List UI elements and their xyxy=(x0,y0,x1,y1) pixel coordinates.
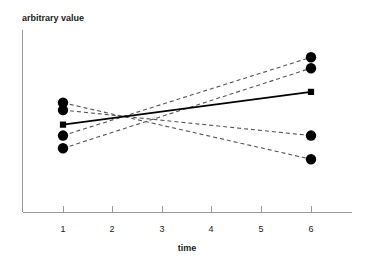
data-point-subject-3-1 xyxy=(58,130,68,140)
chart-plot-area: arbitrary value 1 2 3 4 5 6 time xyxy=(0,0,372,259)
data-point-subject-3-6 xyxy=(306,52,316,62)
series-line-subject-2 xyxy=(63,110,311,135)
data-point-subject-4-6 xyxy=(306,63,316,73)
x-tick-label-5: 5 xyxy=(258,224,263,234)
x-axis-ticks xyxy=(64,206,312,212)
series-line-subject-1 xyxy=(63,103,311,159)
x-tick-label-3: 3 xyxy=(159,224,164,234)
x-tick-label-1: 1 xyxy=(60,224,65,234)
data-point-subject-1-6 xyxy=(306,154,316,164)
data-point-mean-6 xyxy=(308,89,314,95)
x-axis-tick-labels: 1 2 3 4 5 6 xyxy=(60,224,313,234)
y-axis-title: arbitrary value xyxy=(22,13,84,23)
data-point-mean-1 xyxy=(60,122,66,128)
x-axis-title: time xyxy=(178,243,197,253)
x-tick-label-6: 6 xyxy=(308,224,313,234)
chart-series-layer xyxy=(63,57,311,159)
data-point-subject-4-1 xyxy=(58,143,68,153)
chart-figure: arbitrary value 1 2 3 4 5 6 time xyxy=(0,0,372,259)
data-point-subject-2-6 xyxy=(306,130,316,140)
x-tick-label-4: 4 xyxy=(208,224,213,234)
data-point-subject-2-1 xyxy=(58,105,68,115)
x-tick-label-2: 2 xyxy=(109,224,114,234)
